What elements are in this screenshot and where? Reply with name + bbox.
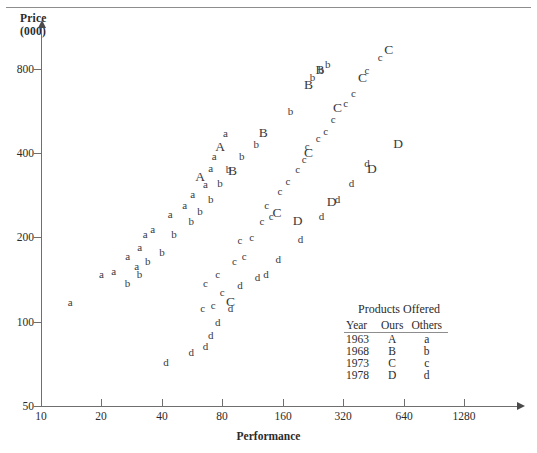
data-point-d: d [203,340,209,351]
x-axis-tick [404,399,405,407]
data-point-d: d [228,302,234,313]
legend-row: 1968Bb [344,345,448,357]
data-point-a: a [137,241,142,252]
data-point-a: a [68,296,73,307]
legend-header-ours: Ours [379,319,409,333]
legend-header-year: Year [344,319,379,333]
data-point-d: d [263,269,269,280]
data-point-b: b [208,193,214,204]
x-axis-tick [222,399,223,407]
data-point-b: b [288,106,294,117]
x-axis-tick [343,399,344,407]
legend-cell: a [409,333,448,346]
data-point-d: d [364,158,370,169]
y-axis-tick-label: 800 [8,63,34,75]
data-point-b: b [137,269,143,280]
x-axis-title: Performance [0,430,537,442]
x-axis-tick [283,399,284,407]
data-point-a: a [150,223,155,234]
data-point-d: d [276,253,282,264]
y-axis-tick [34,237,42,238]
data-point-a: a [208,162,213,173]
data-point-c: c [295,163,300,174]
data-point-c: c [211,299,216,310]
data-point-a: a [125,250,130,261]
legend-cell: 1968 [344,345,379,357]
data-point-c: c [232,255,237,266]
data-point-d: d [237,280,243,291]
x-axis-tick-label: 20 [95,410,107,422]
data-point-a: a [223,128,228,139]
legend-cell: c [409,357,448,369]
data-point-a: a [212,150,217,161]
data-point-c: c [269,211,274,222]
data-point-c: c [331,113,336,124]
chart-canvas: Price (000) Performance 5010020040080010… [0,0,537,453]
data-point-b: b [318,63,324,74]
y-axis-tick [34,322,42,323]
data-point-b: b [226,163,232,174]
data-point-a: a [99,269,104,280]
x-axis-tick-label: 640 [395,410,412,422]
data-point-C: C [384,44,393,58]
data-point-c: c [203,277,208,288]
legend-title: Products Offered [344,302,448,317]
data-point-b: b [310,72,316,83]
data-point-c: c [364,65,369,76]
data-point-c: c [351,88,356,99]
y-axis-tick-label: 100 [8,316,34,328]
data-point-d: d [215,316,221,327]
data-point-a: a [168,209,173,220]
y-axis-tick-label: 200 [8,231,34,243]
data-point-c: c [316,133,321,144]
data-point-D: D [393,138,403,152]
data-point-b: b [197,206,203,217]
y-axis-arrowhead [38,20,46,28]
data-point-b: b [325,59,331,70]
legend-header-others: Others [409,319,448,333]
data-point-b: b [125,277,131,288]
x-axis-tick-label: 40 [156,410,168,422]
data-point-D: D [293,215,303,229]
data-point-c: c [215,269,220,280]
data-point-c: c [264,199,269,210]
legend-cell: b [409,345,448,357]
x-axis-tick [162,399,163,407]
legend-cell: A [379,333,409,346]
data-point-a: a [111,265,116,276]
y-axis-tick-label: 400 [8,147,34,159]
data-point-b: b [217,178,223,189]
x-axis-tick [41,399,42,407]
data-point-a: a [182,199,187,210]
x-axis-tick [101,399,102,407]
legend-table: Year Ours Others 1963Aa1968Bb1973Cc1978D… [344,319,448,381]
data-point-c: c [238,234,243,245]
legend-box: Products Offered Year Ours Others 1963Aa… [344,302,448,381]
legend-cell: 1973 [344,357,379,369]
data-point-c: c [242,250,247,261]
top-divider-rule [6,7,531,8]
data-point-C: C [273,206,282,220]
x-axis-tick [464,399,465,407]
legend-cell: B [379,345,409,357]
data-point-c: c [259,216,264,227]
x-axis-tick-label: 160 [274,410,291,422]
data-point-c: c [200,302,205,313]
legend-body: 1963Aa1968Bb1973Cc1978Dd [344,333,448,382]
data-point-b: b [171,229,177,240]
data-point-a: a [203,179,208,190]
data-point-a: a [143,229,148,240]
data-point-c: c [302,154,307,165]
y-axis-tick [34,69,42,70]
data-point-b: b [253,139,259,150]
data-point-d: d [163,356,169,367]
x-axis-arrowhead [517,402,525,410]
data-point-B: B [259,127,268,141]
data-point-c: c [323,126,328,137]
y-axis-tick-label: 50 [8,400,34,412]
y-axis-line [41,28,42,406]
data-point-b: b [188,216,194,227]
x-axis-tick-label: 320 [334,410,351,422]
legend-cell: C [379,357,409,369]
data-point-c: c [220,286,225,297]
